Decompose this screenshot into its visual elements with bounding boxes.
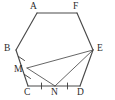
segment-M-N [27,68,55,86]
vertex-label-C: C [24,88,30,98]
vertex-label-N: N [51,88,58,98]
vertex-label-D: D [77,88,84,98]
edge-B-A [16,13,37,50]
vertex-label-E: E [97,44,103,54]
geometry-figure: A F B E C D M N [0,0,115,100]
vertex-label-B: B [4,44,10,54]
vertex-label-A: A [30,2,37,12]
vertex-label-M: M [14,65,22,75]
vertex-label-F: F [73,2,78,12]
edge-E-D [80,50,93,86]
edge-F-E [77,13,93,50]
